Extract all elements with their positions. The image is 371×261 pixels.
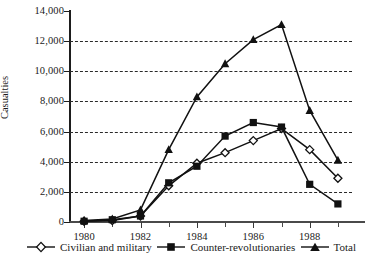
legend-label-counter-revolutionaries: Counter-revolutionaries: [190, 241, 295, 253]
y-tick-label: 12,000: [35, 36, 64, 47]
filled-square-icon: [156, 241, 186, 253]
y-tick-label: 2,000: [40, 187, 64, 198]
data-point-open-diamond: [249, 137, 257, 145]
y-tick-label: 0: [59, 217, 64, 228]
series-lines: [70, 11, 352, 222]
data-point-filled-square: [278, 123, 285, 130]
data-point-filled-triangle: [165, 145, 173, 153]
data-point-open-diamond: [221, 149, 229, 157]
x-tick: [310, 222, 311, 228]
x-tick: [225, 222, 226, 227]
data-point-filled-square: [222, 132, 229, 139]
y-tick-label: 10,000: [35, 66, 64, 77]
y-tick-label: 8,000: [40, 96, 64, 107]
y-tick-label: 6,000: [40, 127, 64, 138]
y-tick-label: 4,000: [40, 157, 64, 168]
legend-item-counter-revolutionaries: Counter-revolutionaries: [156, 241, 295, 253]
chart-legend: Civilian and military Counter-revolution…: [26, 238, 356, 256]
x-tick: [197, 222, 198, 228]
x-tick: [282, 222, 283, 227]
chart-figure: Casualties 02,0004,0006,0008,00010,00012…: [0, 0, 371, 261]
legend-label-total: Total: [334, 241, 356, 253]
data-point-filled-triangle: [136, 206, 144, 214]
plot-area: [70, 11, 352, 222]
legend-label-civilian-and-military: Civilian and military: [60, 241, 152, 253]
series-line-filled-triangle: [84, 25, 338, 221]
y-tick: [64, 222, 70, 223]
data-point-filled-square: [334, 200, 341, 207]
data-point-filled-triangle: [306, 106, 314, 114]
series-line-filled-square: [84, 123, 338, 222]
data-point-filled-square: [137, 212, 144, 219]
x-tick: [253, 222, 254, 228]
legend-item-total: Total: [300, 241, 356, 253]
data-point-filled-square: [250, 119, 257, 126]
data-point-filled-triangle: [334, 156, 342, 164]
y-tick-label: 14,000: [35, 6, 64, 17]
open-diamond-icon: [26, 241, 56, 253]
filled-triangle-icon: [300, 241, 330, 253]
data-point-filled-square: [193, 163, 200, 170]
data-point-filled-square: [165, 179, 172, 186]
x-tick: [169, 222, 170, 227]
data-point-filled-triangle: [277, 20, 285, 28]
legend-item-civilian-and-military: Civilian and military: [26, 241, 152, 253]
y-axis-title: Casualties: [0, 38, 10, 158]
x-tick: [141, 222, 142, 228]
data-point-filled-square: [306, 181, 313, 188]
series-line-open-diamond: [84, 129, 338, 222]
data-point-filled-triangle: [249, 35, 257, 43]
x-tick: [338, 222, 339, 227]
